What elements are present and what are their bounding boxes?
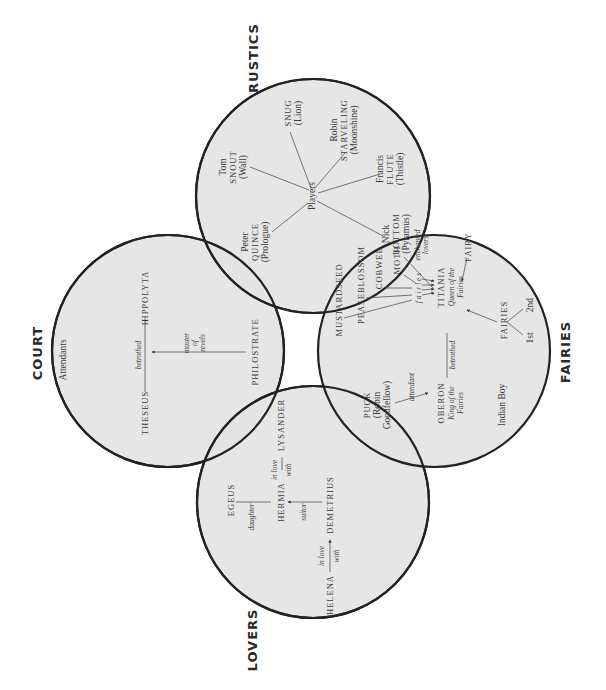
suitor-label: suitor — [299, 503, 308, 521]
snout-name: Tom — [218, 158, 228, 176]
oberon-title-1: King of the — [447, 386, 456, 421]
lysander-node: LYSANDER — [276, 399, 286, 451]
second-fairy-node: 2nd — [525, 298, 535, 313]
in-love-with-2b: with — [332, 549, 341, 562]
oberon-title-2: Fairies — [456, 392, 465, 415]
titania-title-2: Fairies — [456, 276, 465, 299]
flute-node: FLUTE — [385, 153, 395, 184]
betrothed-fairies-label: betrothed — [448, 341, 457, 370]
bottom-name: Nick — [381, 225, 391, 244]
court-label: COURT — [30, 326, 45, 380]
moth-node: MOTH — [392, 245, 402, 274]
daughter-label: daughter — [247, 503, 256, 530]
quince-node: QUINCE — [250, 223, 260, 261]
titania-node: TITANIA — [436, 267, 446, 308]
starveling-role: (Moonshine) — [349, 105, 360, 154]
starveling-name: Robin — [329, 118, 339, 141]
puck-alias-2: Goodfellow) — [382, 381, 393, 430]
attendant-label: attendant — [407, 372, 416, 401]
puck-node: PUCK — [362, 392, 372, 419]
in-love-with-1a: in love — [270, 459, 279, 480]
venn-diagram: RUSTICS COURT LOVERS FAIRIES Attendants … — [0, 0, 606, 690]
snout-role: (Wall) — [238, 155, 249, 179]
bottom-role: (Pyramus) — [401, 214, 412, 254]
theseus-node: THESEUS — [140, 391, 150, 435]
cobweb-node: COBWEB — [374, 247, 384, 289]
flute-name: Francis — [375, 155, 385, 183]
snug-role: (Lion) — [293, 101, 304, 125]
titania-title-1: Queen of the — [447, 267, 456, 306]
quince-name: Peter — [240, 231, 250, 251]
fairy-node: FAIRY — [463, 232, 473, 261]
fairies-node: FAIRIES — [499, 301, 509, 340]
first-fairy-node: 1st — [525, 332, 535, 343]
indian-boy-node: Indian Boy — [497, 384, 507, 427]
hippolyta-node: HIPPOLYTA — [140, 271, 150, 326]
players-node: Players — [307, 182, 317, 210]
flute-role: (Thistle) — [395, 153, 406, 186]
fairies-circle — [318, 235, 550, 467]
attendants-text: Attendants — [58, 339, 68, 380]
lovers-label: LOVERS — [245, 609, 260, 672]
in-love-with-1b: with — [284, 463, 293, 476]
mustardseed-node: MUSTARDSEED — [334, 263, 344, 336]
quince-role: (Prologue) — [260, 222, 271, 263]
oberon-node: OBERON — [436, 383, 446, 424]
rustics-label: RUSTICS — [246, 23, 261, 93]
snout-node: SNOUT — [228, 150, 238, 183]
hermia-node: HERMIA — [276, 482, 286, 522]
demetrius-node: DEMETRIUS — [325, 476, 335, 534]
egeus-node: EGEUS — [226, 484, 236, 516]
starveling-node: STARVELING — [339, 99, 349, 161]
helena-node: HELENA — [325, 575, 335, 615]
fairies-label: FAIRIES — [558, 321, 573, 383]
fairies-caption: f a i r i e s — [414, 273, 423, 303]
enchanted-lovers-label-2: lovers — [421, 236, 430, 254]
peaseblossom-node: PEASEBLOSSOM — [356, 246, 366, 324]
in-love-with-2a: in love — [317, 545, 326, 566]
master-of-revels-label-3: revels — [198, 334, 207, 352]
philostrate-node: PHILOSTRATE — [250, 318, 260, 385]
snug-node: SNUG — [283, 99, 293, 126]
betrothed-court-label: betrothed — [134, 341, 143, 370]
diagram-canvas: RUSTICS COURT LOVERS FAIRIES Attendants … — [0, 0, 606, 690]
